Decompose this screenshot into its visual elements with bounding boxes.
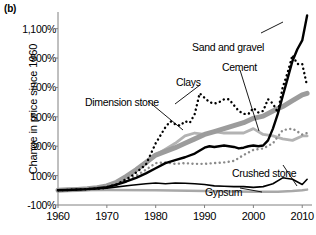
annotation-crushed-stone: Crushed stone — [232, 168, 296, 179]
annotation-gypsum: Gypsum — [205, 187, 242, 198]
annotation-cement: Cement — [222, 62, 257, 73]
chart-figure: (b) Change in price since 1960 -100%100%… — [0, 0, 316, 235]
leader-line-0 — [261, 22, 283, 33]
annotation-clays: Clays — [176, 77, 201, 88]
annotation-sand-and-gravel: Sand and gravel — [192, 42, 264, 53]
annotation-dimension-stone: Dimension stone — [85, 97, 159, 108]
plot-area — [0, 0, 316, 235]
